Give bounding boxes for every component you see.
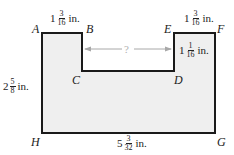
- vertex-g-label: G: [217, 136, 226, 148]
- vertex-a-label: A: [32, 23, 39, 35]
- unknown-distance-label: ?: [124, 43, 129, 55]
- vertex-d-label: D: [174, 74, 183, 86]
- vertex-h-label: H: [31, 136, 40, 148]
- measurement-ah: 2 58 in.: [3, 78, 29, 95]
- measurement-hg: 5 332 in.: [117, 135, 147, 152]
- vertex-f-label: F: [217, 23, 224, 35]
- vertex-c-label: C: [72, 74, 80, 86]
- vertex-e-label: E: [164, 23, 171, 35]
- measurement-de: 1 116 in.: [179, 42, 209, 59]
- vertex-b-label: B: [86, 23, 93, 35]
- measurement-ab: 1 316 in.: [50, 10, 80, 27]
- measurement-ef: 1 316 in.: [184, 10, 214, 27]
